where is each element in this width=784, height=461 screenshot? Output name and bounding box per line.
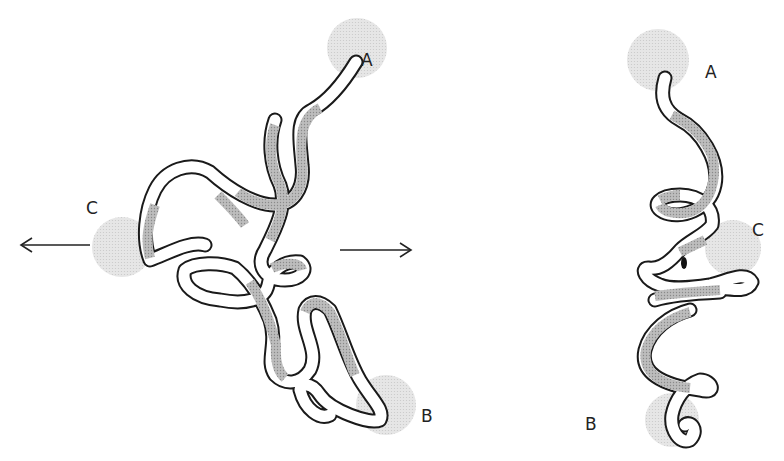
label-a-right: A [705,62,717,82]
arrow-left-icon [21,238,90,252]
label-a-left: A [361,50,373,70]
arrow-right-icon [340,243,411,257]
label-b-right: B [585,414,597,434]
dark-marker [681,257,687,269]
polypeptide-chain-left [145,62,381,421]
label-c-right: C [752,220,764,240]
label-b-left: B [421,406,433,426]
label-c-left: C [86,198,98,218]
left-panel-structure [21,18,416,435]
diagram-canvas [0,0,784,461]
right-panel-structure [627,29,761,447]
